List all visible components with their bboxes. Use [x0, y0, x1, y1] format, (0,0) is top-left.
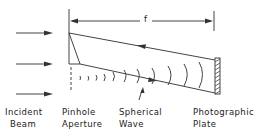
reference-ray	[69, 33, 215, 60]
arrowhead-right-icon	[148, 77, 157, 82]
label-photographic-plate: Photographic Plate	[193, 106, 254, 130]
arrowhead-icon	[44, 31, 53, 36]
object-ray	[80, 64, 215, 93]
label-line: Spherical	[119, 106, 162, 118]
label-line: Incident	[5, 106, 42, 118]
label-line: Plate	[193, 118, 254, 130]
label-line: Wave	[119, 118, 162, 130]
arrowhead-icon	[44, 92, 53, 97]
spherical-wave-arcs	[80, 62, 203, 88]
label-line: Beam	[5, 118, 42, 130]
pinhole-aperture	[69, 33, 80, 92]
label-line: Pinhole	[62, 106, 102, 118]
aperture-triangle	[69, 33, 80, 64]
arrowhead-icon	[44, 62, 53, 67]
spherical-wave-pointer	[139, 87, 145, 100]
focal-length-label: f	[141, 14, 150, 24]
photographic-plate	[215, 58, 220, 94]
arrowhead-left-icon	[70, 19, 78, 24]
incident-beam-arrows	[16, 31, 53, 97]
label-line: Photographic	[193, 106, 254, 118]
arrowhead-right-icon	[205, 19, 213, 24]
label-spherical-wave: Spherical Wave	[119, 106, 162, 130]
label-pinhole-aperture: Pinhole Aperture	[62, 106, 102, 130]
arrowhead-left-icon	[137, 44, 146, 49]
label-incident-beam: Incident Beam	[5, 106, 42, 130]
label-line: Aperture	[62, 118, 102, 130]
